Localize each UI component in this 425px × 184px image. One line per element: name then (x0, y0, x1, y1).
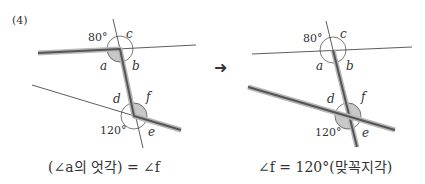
right-label-c: c (340, 27, 347, 41)
left-diagram: 80° c a b d f 120° e (32, 19, 196, 148)
right-label-e: e (362, 126, 369, 140)
right-caption: ∠f = 120°(맞꼭지각) (258, 156, 392, 176)
left-label-a: a (100, 59, 107, 73)
right-thick-bottom-line (248, 87, 395, 130)
right-label-120: 120° (315, 126, 342, 139)
left-label-80: 80° (88, 31, 108, 44)
left-thick-path-halo (38, 49, 181, 130)
right-transversal-upper (326, 21, 333, 50)
left-thick-path (38, 49, 181, 130)
left-label-f: f (145, 90, 153, 104)
right-label-f: f (360, 90, 368, 104)
left-label-e: e (148, 125, 155, 139)
right-label-80: 80° (303, 32, 323, 45)
left-label-c: c (126, 27, 133, 41)
left-caption: (∠a의 엇각) = ∠f (48, 156, 160, 176)
arrow-right-icon: ➜ (214, 58, 227, 77)
left-label-d: d (113, 92, 121, 106)
right-label-a: a (316, 59, 323, 73)
left-label-b: b (132, 59, 140, 73)
right-label-b: b (346, 59, 354, 73)
right-diagram: 80° c a b d f 120° e (248, 21, 412, 147)
right-label-d: d (327, 92, 335, 106)
left-label-120: 120° (100, 124, 127, 137)
